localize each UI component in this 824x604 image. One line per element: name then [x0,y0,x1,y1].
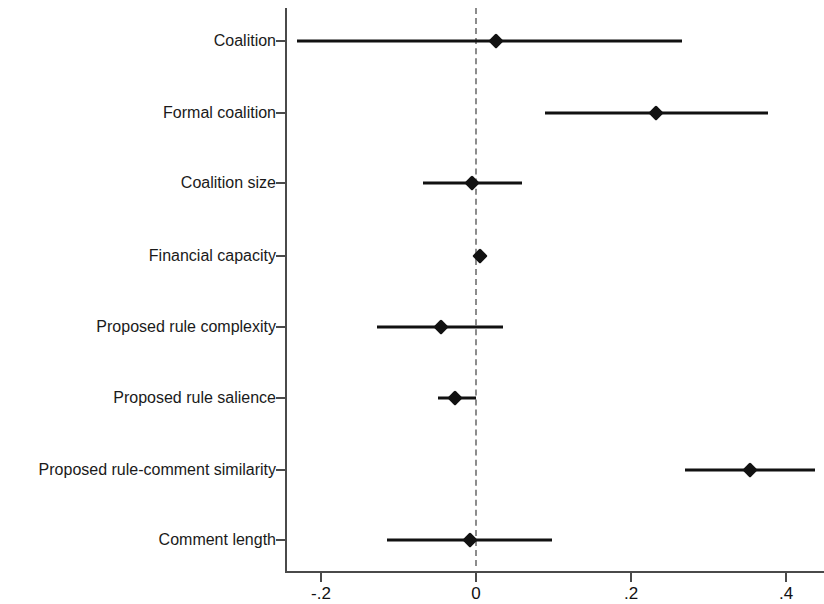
x-axis-line [285,571,824,573]
coefficient-plot: CoalitionFormal coalitionCoalition sizeF… [0,0,824,604]
y-axis-label-proposed-rule-salience: Proposed rule salience [113,390,276,406]
point-estimate-marker [447,390,463,406]
y-axis-label-coalition-size: Coalition size [181,175,276,191]
x-axis-tick [785,573,787,582]
y-axis-label-formal-coalition: Formal coalition [163,105,276,121]
y-axis-tick [276,255,285,257]
y-axis-tick [276,112,285,114]
point-estimate-marker [743,462,759,478]
y-axis-line [285,8,287,573]
point-estimate-marker [433,319,449,335]
x-axis-tick [630,573,632,582]
x-axis-tick-label: -.2 [311,584,331,604]
y-axis-tick [276,326,285,328]
y-axis-tick [276,539,285,541]
y-axis-tick [276,182,285,184]
x-axis-tick [475,573,477,582]
y-axis-label-proposed-rule-comment-similarity: Proposed rule-comment similarity [39,462,276,478]
y-axis-tick [276,397,285,399]
y-axis-tick [276,469,285,471]
x-axis-tick-label: 0 [471,584,480,604]
y-axis-tick [276,40,285,42]
x-axis-tick [320,573,322,582]
x-axis-tick-label: .2 [624,584,638,604]
point-estimate-marker [648,105,664,121]
y-axis-label-comment-length: Comment length [159,532,276,548]
y-axis-label-financial-capacity: Financial capacity [149,248,276,264]
x-axis-tick-label: .4 [779,584,793,604]
zero-reference-line [475,8,477,566]
point-estimate-marker [464,175,480,191]
y-axis-label-coalition: Coalition [214,33,276,49]
point-estimate-marker [488,33,504,49]
y-axis-label-proposed-rule-complexity: Proposed rule complexity [96,319,276,335]
